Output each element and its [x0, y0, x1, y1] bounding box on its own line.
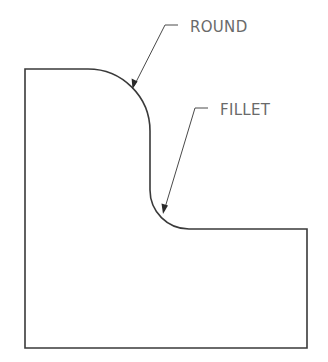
- fillet-leader: [162, 108, 209, 214]
- round-label: ROUND: [190, 18, 247, 36]
- fillet-arrowhead-icon: [162, 204, 169, 215]
- diagram-canvas: ROUND FILLET: [0, 0, 328, 362]
- round-leader: [132, 25, 178, 89]
- fillet-label: FILLET: [220, 101, 271, 119]
